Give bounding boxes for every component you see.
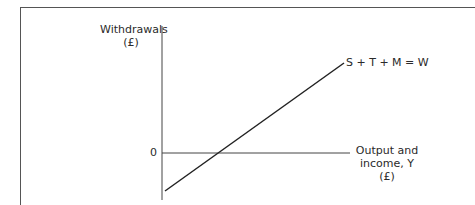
y-axis-label-unit: (£) — [100, 36, 162, 49]
withdrawals-line-label: S + T + M = W — [346, 56, 429, 69]
origin-label: 0 — [150, 146, 157, 159]
x-axis-label-line1: Output and — [352, 144, 422, 157]
y-axis-label: Withdrawals (£) — [100, 23, 162, 49]
x-axis-label-line2: income, Y — [352, 157, 422, 170]
withdrawals-line — [165, 63, 344, 191]
y-axis-label-line1: Withdrawals — [100, 23, 162, 36]
x-axis-label: Output and income, Y (£) — [352, 144, 422, 183]
x-axis-label-unit: (£) — [352, 170, 422, 183]
